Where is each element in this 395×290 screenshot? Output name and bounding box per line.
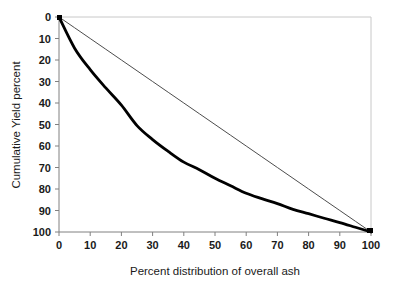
y-axis-tick-label: 10 (39, 33, 51, 45)
x-axis-tick-label: 90 (334, 239, 346, 251)
x-axis-tick-label: 10 (84, 239, 96, 251)
y-axis-tick-label: 0 (45, 11, 51, 23)
y-axis-tick-label: 80 (39, 183, 51, 195)
x-axis-tick-label: 80 (302, 239, 314, 251)
y-axis-tick-label: 100 (33, 226, 51, 238)
y-axis-tick-label: 30 (39, 76, 51, 88)
y-axis-tick-label: 60 (39, 140, 51, 152)
y-axis-tick-label: 40 (39, 97, 51, 109)
x-axis-tick-label: 70 (271, 239, 283, 251)
y-axis-tick-label: 20 (39, 54, 51, 66)
x-axis-title: Percent distribution of overall ash (130, 265, 300, 277)
y-axis-tick-label: 90 (39, 205, 51, 217)
x-axis-tick-label: 60 (240, 239, 252, 251)
x-axis-tick-label: 20 (115, 239, 127, 251)
x-axis-tick-label: 100 (362, 239, 380, 251)
x-axis-tick-label: 40 (178, 239, 190, 251)
x-axis-tick-labels: 0102030405060708090100 (56, 239, 380, 251)
x-axis-tick-label: 0 (56, 239, 62, 251)
data-series-group (59, 17, 371, 232)
washability-chart: 0102030405060708090100 01020304050607080… (0, 0, 395, 290)
y-axis-ticks (55, 17, 59, 232)
y-axis-title: Cumulative Yield percent (10, 61, 22, 189)
x-axis-ticks (59, 232, 371, 236)
x-axis-tick-label: 30 (146, 239, 158, 251)
x-axis-tick-label: 50 (209, 239, 221, 251)
chart-container: 0102030405060708090100 01020304050607080… (0, 0, 395, 290)
y-axis-tick-labels: 0102030405060708090100 (33, 11, 51, 238)
series-reference-diagonal (59, 17, 371, 232)
end-point-marker (367, 228, 373, 233)
y-axis-tick-label: 50 (39, 119, 51, 131)
y-axis-tick-label: 70 (39, 162, 51, 174)
start-point-marker (57, 15, 62, 20)
